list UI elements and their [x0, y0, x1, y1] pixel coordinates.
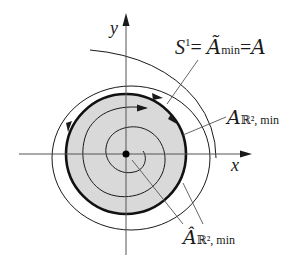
outer-orbit-arrow-icon [152, 93, 163, 100]
circle-label-min: min [221, 43, 240, 57]
leader-hat-label-outer [183, 183, 203, 224]
circle-label-eq2: = [240, 36, 251, 58]
circle-label-eq1: = [191, 36, 202, 58]
disk-label: Aℝ², min [227, 106, 279, 129]
equilibrium-point [123, 151, 130, 158]
hat-label: Âℝ², min [183, 226, 235, 249]
circle-label: S1= Ãmin=A [175, 35, 266, 59]
disk-label-a: A [227, 106, 241, 128]
hat-label-sub: ℝ², min [197, 233, 235, 247]
y-axis-arrow-icon [123, 13, 130, 26]
circle-label-a-tilde: Ã [207, 35, 221, 59]
hat-label-a: Â [183, 226, 197, 248]
y-axis-label: y [110, 18, 118, 39]
x-axis-arrow-icon [240, 151, 252, 158]
disk-label-sub: ℝ², min [241, 113, 279, 127]
x-axis-label: x [231, 155, 239, 176]
circle-label-s: S [175, 36, 185, 58]
circle-label-a: A [251, 35, 265, 59]
